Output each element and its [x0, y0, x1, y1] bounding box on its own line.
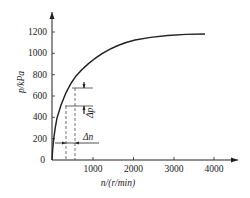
svg-text:2000: 2000 — [124, 164, 143, 174]
svg-text:4000: 4000 — [205, 164, 224, 174]
svg-text:200: 200 — [33, 134, 48, 144]
pressure-speed-curve — [52, 34, 205, 160]
y-axis-label: p/kPa — [16, 71, 26, 94]
svg-text:800: 800 — [33, 70, 48, 80]
svg-text:400: 400 — [33, 112, 48, 122]
x-axis-label: n/(r/min) — [101, 178, 135, 189]
delta-p-arrowhead-top — [83, 84, 86, 88]
svg-text:1000: 1000 — [28, 48, 47, 58]
svg-text:3000: 3000 — [165, 164, 184, 174]
svg-text:0: 0 — [40, 155, 45, 165]
y-tick-labels: 0 200 400 600 800 1000 1200 — [28, 27, 47, 165]
chart: 0 200 400 600 800 1000 1200 1000 2000 30… — [0, 0, 250, 198]
delta-n-arrowhead-left — [62, 142, 66, 145]
svg-text:600: 600 — [33, 91, 48, 101]
delta-p-label: Δp — [85, 107, 95, 119]
x-tick-labels: 1000 2000 3000 4000 — [84, 164, 224, 174]
delta-n-label: Δn — [82, 132, 94, 142]
svg-text:1200: 1200 — [28, 27, 47, 37]
svg-text:1000: 1000 — [84, 164, 103, 174]
delta-n-arrowhead-right — [75, 142, 79, 145]
